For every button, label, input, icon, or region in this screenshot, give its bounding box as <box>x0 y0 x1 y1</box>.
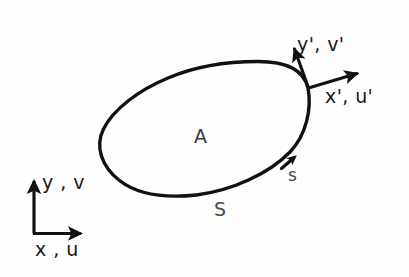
label-global-x-axis: x , u <box>35 240 79 259</box>
label-arc-length-s-lowercase: s <box>288 167 297 184</box>
label-local-x-axis: x', u' <box>325 87 373 106</box>
label-curve-s-uppercase: S <box>214 200 226 219</box>
label-global-y-axis: y , v <box>42 173 85 192</box>
figure-canvas: A s S y', v' x', u' y , v x , u <box>0 0 409 277</box>
label-area-a: A <box>194 127 207 146</box>
label-local-y-axis: y', v' <box>297 35 344 54</box>
